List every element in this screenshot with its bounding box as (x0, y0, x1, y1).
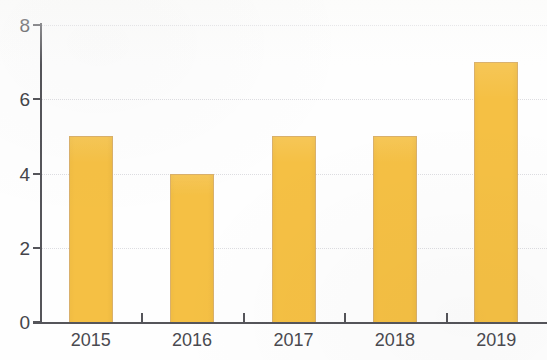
y-axis-tick (33, 321, 41, 323)
y-axis-tick-label: 4 (2, 164, 30, 183)
gridline (40, 25, 547, 26)
y-axis-tick-label: 2 (2, 238, 30, 257)
x-axis-tick-label: 2016 (152, 331, 232, 349)
y-axis-tick (33, 173, 41, 175)
bar (69, 136, 113, 322)
x-axis-tick (141, 313, 143, 322)
bar (170, 174, 214, 323)
gridline (40, 99, 547, 100)
x-axis-tick-label: 2018 (355, 331, 435, 349)
x-axis-tick-label: 2015 (51, 331, 131, 349)
x-axis-tick (446, 313, 448, 322)
x-axis-tick (344, 313, 346, 322)
bar-chart: 02468 20152016201720182019 (0, 0, 547, 360)
y-axis-tick-label: 8 (2, 16, 30, 35)
x-axis-tick-label: 2017 (254, 331, 334, 349)
plot-area (40, 25, 547, 322)
x-axis-tick-label: 2019 (456, 331, 536, 349)
x-axis-line (33, 322, 547, 324)
y-axis-tick (33, 247, 41, 249)
y-axis-label-group: 02468 (0, 0, 30, 360)
x-axis-tick (243, 313, 245, 322)
y-axis-tick (33, 24, 41, 26)
y-axis-tick-label: 0 (2, 313, 30, 332)
bar (272, 136, 316, 322)
y-axis-tick-label: 6 (2, 90, 30, 109)
bar (474, 62, 518, 322)
y-axis-tick (33, 98, 41, 100)
bar (373, 136, 417, 322)
